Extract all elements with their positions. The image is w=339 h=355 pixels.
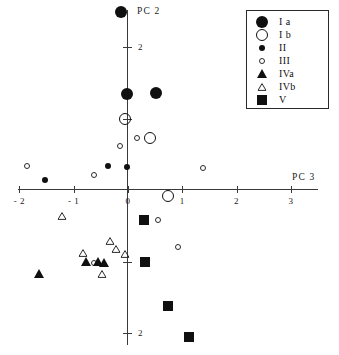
- y-tick: [123, 262, 132, 263]
- marker-filled-circle-large: [256, 16, 268, 28]
- marker-filled-circle-small: [105, 163, 111, 169]
- x-tick: [128, 186, 129, 193]
- x-tick-label: 1: [180, 196, 185, 206]
- marker-open-triangle: [57, 212, 66, 220]
- marker-open-circle-large: [119, 113, 131, 125]
- marker-open-triangle: [258, 83, 267, 91]
- marker-filled-circle-large: [121, 88, 133, 100]
- marker-filled-circle-small: [124, 164, 130, 170]
- marker-filled-circle-small: [42, 177, 48, 183]
- marker-filled-circle-small: [259, 45, 265, 51]
- marker-open-circle-small: [91, 172, 97, 178]
- legend-symbol: [254, 67, 270, 80]
- marker-open-triangle: [121, 250, 130, 258]
- x-tick-label: 2: [234, 196, 239, 206]
- marker-open-triangle: [112, 245, 121, 253]
- marker-open-circle-small: [117, 143, 123, 149]
- x-axis-title: PC 3: [292, 172, 316, 182]
- marker-filled-triangle: [34, 269, 44, 278]
- legend-label: V: [279, 94, 287, 105]
- legend-item-ivb: IVb: [247, 80, 328, 93]
- x-tick: [291, 186, 292, 193]
- marker-filled-square: [139, 215, 149, 225]
- marker-open-circle-small: [155, 217, 161, 223]
- legend-symbol: [254, 54, 270, 67]
- legend-label: III: [279, 55, 290, 66]
- y-axis-line: [127, 10, 128, 345]
- marker-open-circle-small: [134, 135, 140, 141]
- marker-filled-circle-large: [115, 6, 127, 18]
- x-tick-label: 3: [288, 196, 293, 206]
- y-tick-label: 2: [138, 42, 143, 52]
- x-tick-label: - 2: [14, 196, 25, 206]
- marker-open-circle-small: [259, 58, 265, 64]
- marker-open-circle-small: [24, 163, 30, 169]
- legend-label: II: [279, 42, 286, 53]
- marker-open-circle-small: [200, 165, 206, 171]
- legend-label: I a: [279, 16, 290, 27]
- legend-symbol: [254, 28, 270, 41]
- x-tick-label: 0: [126, 196, 131, 206]
- legend: I aI bIIIIIIVaIVbV: [246, 10, 329, 109]
- legend-label: IVa: [279, 68, 294, 79]
- legend-item-ia: I a: [247, 15, 328, 28]
- x-tick: [182, 186, 183, 193]
- legend-item-ib: I b: [247, 28, 328, 41]
- legend-symbol: [254, 15, 270, 28]
- marker-filled-circle-large: [150, 87, 162, 99]
- marker-open-circle-large: [144, 132, 156, 144]
- marker-filled-square: [140, 257, 150, 267]
- legend-symbol: [254, 93, 270, 106]
- legend-label: I b: [279, 29, 291, 40]
- y-axis-title: PC 2: [137, 6, 161, 16]
- legend-symbol: [254, 80, 270, 93]
- marker-open-circle-large: [162, 190, 174, 202]
- legend-symbol: [254, 41, 270, 54]
- x-tick-label: - 1: [68, 196, 79, 206]
- x-tick: [19, 186, 20, 193]
- legend-item-iii: III: [247, 54, 328, 67]
- legend-item-v: V: [247, 93, 328, 106]
- marker-filled-square: [257, 95, 267, 105]
- legend-label: IVb: [279, 81, 296, 92]
- marker-open-circle-small: [175, 244, 181, 250]
- x-tick: [74, 186, 75, 193]
- y-tick-label: 2: [138, 328, 143, 338]
- marker-filled-triangle: [81, 257, 91, 266]
- marker-filled-triangle: [99, 258, 109, 267]
- marker-open-triangle: [79, 249, 88, 257]
- y-tick: [123, 47, 132, 48]
- marker-filled-square: [163, 301, 173, 311]
- legend-item-ii: II: [247, 41, 328, 54]
- y-tick: [123, 333, 132, 334]
- legend-item-iva: IVa: [247, 67, 328, 80]
- x-tick: [237, 186, 238, 193]
- marker-open-triangle: [98, 270, 107, 278]
- scatter-plot: PC 3 PC 2 - 2- 10123 22 I aI bIIIIIIVaIV…: [0, 0, 339, 355]
- marker-filled-triangle: [257, 69, 267, 78]
- marker-filled-square: [184, 332, 194, 342]
- marker-open-circle-large: [256, 29, 268, 41]
